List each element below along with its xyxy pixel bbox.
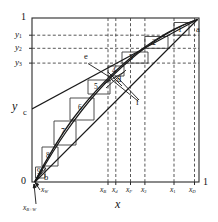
chord-c-to-a	[32, 20, 198, 110]
y-tick-label-y1: y1	[15, 30, 22, 40]
x-tick-label-xD: xD	[189, 186, 196, 195]
diagonal-b-to-a	[35, 20, 198, 183]
step-label-3: 3	[129, 54, 133, 62]
point-label-f: f	[136, 98, 139, 107]
x-tick-label-x2: x2	[141, 186, 147, 195]
step-label-7: 7	[61, 128, 65, 136]
x-tick-label-xBW: xB+W	[23, 204, 36, 213]
point-label-a: a	[196, 25, 200, 34]
x-axis-title: x	[115, 198, 120, 210]
staircase-steps	[36, 23, 190, 179]
step-label-1: 1	[178, 26, 182, 34]
step-label-6: 6	[78, 104, 82, 112]
x-tick-label-xF: xF	[126, 186, 132, 195]
y-tick-label-y2: y2	[15, 43, 22, 53]
x-axis-right-label: 1	[203, 177, 208, 187]
origin-label: 0	[21, 176, 26, 186]
point-label-e: e	[84, 52, 88, 61]
point-label-d: d	[117, 75, 121, 84]
y-axis-top-label: 1	[21, 12, 26, 22]
point-label-c: c	[23, 108, 27, 117]
step-label-5: 5	[94, 83, 98, 91]
y-tick-label-y3: y3	[15, 58, 22, 68]
figure-container: 1 y1 y2 y3 y x 0 1 xB xd xF x2 x1 xD xW …	[0, 0, 218, 222]
point-label-b: b	[44, 173, 48, 182]
step-6	[70, 98, 94, 120]
figure-plot	[0, 0, 218, 222]
x-tick-label-xB: xB	[100, 186, 106, 195]
x-tick-label-xd: xd	[112, 186, 118, 195]
step-label-4: 4	[112, 67, 116, 75]
x-tick-label-x1: x1	[170, 186, 176, 195]
x-tick-label-xW: xW	[41, 186, 48, 195]
step-label-9: 9	[37, 168, 41, 176]
origin-pointer-arrows	[33, 183, 40, 205]
y-axis-title: y	[12, 100, 17, 112]
step-label-8: 8	[46, 152, 50, 160]
step-label-2: 2	[152, 39, 156, 47]
